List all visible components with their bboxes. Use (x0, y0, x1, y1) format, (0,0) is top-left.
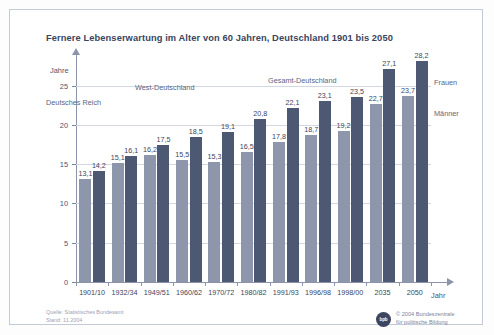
chart-title: Fernere Lebenserwartung im Alter von 60 … (46, 33, 393, 43)
y-tick-mark (72, 164, 76, 165)
bar-maenner (144, 155, 156, 282)
bar-value-label: 23,7 (395, 86, 421, 95)
bar-frauen (93, 171, 105, 282)
y-axis-label: Jahre (50, 66, 69, 75)
x-tick-mark (173, 282, 174, 286)
y-tick-label: 25 (46, 82, 68, 91)
bar-value-label: 23,1 (312, 91, 338, 100)
source-line-2: Stand: 11.2004 (46, 317, 124, 325)
x-tick-mark (141, 282, 142, 286)
region-annotation-gesamt-deutschland: Gesamt-Deutschland (268, 76, 337, 85)
plot-area: 13,114,215,116,116,217,515,518,515,319,1… (76, 70, 431, 282)
region-annotation-west-deutschland: West-Deutschland (135, 83, 194, 92)
source-line-1: Quelle: Statistisches Bundesamt (46, 309, 124, 317)
x-tick-mark (399, 282, 400, 286)
x-tick-mark (302, 282, 303, 286)
region-annotation-deutsches-reich: Deutsches Reich (46, 98, 101, 107)
bar-value-label: 18,5 (183, 127, 209, 136)
x-tick-mark (366, 282, 367, 286)
bar-value-label: 17,5 (150, 135, 176, 144)
credit-line-2: für politische Bildung (396, 319, 455, 327)
x-axis-arrow (447, 278, 454, 286)
bar-value-label: 19,2 (331, 121, 357, 130)
bar-maenner (273, 142, 285, 282)
bar-maenner (338, 131, 350, 282)
bar-value-label: 17,8 (266, 132, 292, 141)
x-tick-mark (334, 282, 335, 286)
y-tick-mark (72, 243, 76, 244)
x-tick-mark (76, 282, 77, 286)
bar-maenner (79, 179, 91, 282)
x-tick-mark (270, 282, 271, 286)
bar-value-label: 15,5 (169, 150, 195, 159)
gridline (76, 86, 431, 87)
y-tick-mark (72, 86, 76, 87)
bar-value-label: 15,1 (105, 153, 131, 162)
bar-value-label: 18,7 (298, 125, 324, 134)
x-tick-mark (205, 282, 206, 286)
bar-value-label: 22,1 (280, 98, 306, 107)
bar-value-label: 16,5 (234, 142, 260, 151)
y-tick-label: 5 (46, 239, 68, 248)
legend-label-maenner: Männer (434, 109, 459, 118)
y-tick-mark (72, 203, 76, 204)
source-note: Quelle: Statistisches Bundesamt Stand: 1… (46, 309, 124, 325)
bar-value-label: 13,1 (72, 169, 98, 178)
y-tick-label: 0 (46, 278, 68, 287)
screenshot-frame: Fernere Lebenserwartung im Alter von 60 … (0, 0, 494, 335)
bar-maenner (208, 162, 220, 282)
y-tick-label: 20 (46, 121, 68, 130)
bpb-logo-icon: bpb (376, 312, 391, 327)
bar-frauen (157, 145, 169, 282)
y-tick-label: 15 (46, 160, 68, 169)
bar-maenner (305, 135, 317, 282)
y-tick-label: 10 (46, 199, 68, 208)
x-tick-mark (108, 282, 109, 286)
x-tick-mark (237, 282, 238, 286)
x-category-label: 2050 (395, 288, 435, 297)
credit-line-1: © 2004 Bundeszentrale (396, 311, 455, 319)
bar-value-label: 16,2 (137, 145, 163, 154)
x-tick-mark (431, 282, 432, 286)
bar-value-label: 28,2 (409, 51, 435, 60)
legend-label-frauen: Frauen (434, 78, 457, 87)
bar-maenner (241, 152, 253, 282)
bar-value-label: 19,1 (215, 122, 241, 131)
bar-value-label: 27,1 (376, 59, 402, 68)
bar-maenner (112, 163, 124, 282)
bar-maenner (176, 160, 188, 282)
copyright-note: © 2004 Bundeszentrale für politische Bil… (396, 311, 455, 327)
bpb-logo-text: bpb (376, 317, 391, 322)
chart-card: Fernere Lebenserwartung im Alter von 60 … (9, 9, 483, 325)
bar-value-label: 20,8 (247, 109, 273, 118)
bar-value-label: 22,7 (363, 94, 389, 103)
bar-maenner (402, 96, 414, 282)
gridline (76, 282, 431, 283)
bar-value-label: 15,3 (201, 152, 227, 161)
bar-maenner (370, 104, 382, 282)
y-tick-mark (72, 125, 76, 126)
bar-frauen (125, 156, 137, 282)
